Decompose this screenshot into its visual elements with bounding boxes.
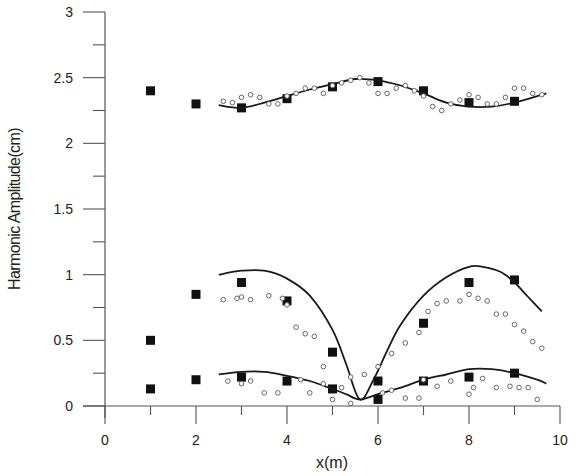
circle-marker <box>467 92 472 97</box>
circle-marker <box>458 299 463 304</box>
square-marker <box>192 290 201 299</box>
circle-marker <box>348 78 353 83</box>
circle-marker <box>330 397 335 402</box>
circle-marker <box>485 102 490 107</box>
circle-marker <box>471 385 476 390</box>
circle-marker <box>449 379 454 384</box>
circle-marker <box>426 309 431 314</box>
square-marker <box>146 86 155 95</box>
circle-marker <box>321 364 326 369</box>
circle-marker <box>517 385 522 390</box>
circle-marker <box>267 102 272 107</box>
upper-squares-series <box>146 77 519 112</box>
circle-marker <box>526 385 531 390</box>
square-marker <box>419 319 428 328</box>
circle-marker <box>276 391 281 396</box>
circle-marker <box>535 397 540 402</box>
circle-marker <box>485 299 490 304</box>
x-tick-label: 2 <box>192 432 200 448</box>
x-tick-label: 10 <box>552 432 568 448</box>
circle-marker <box>312 86 317 91</box>
circle-marker <box>367 81 372 86</box>
square-marker <box>146 384 155 393</box>
plot-area <box>146 75 546 405</box>
circle-marker <box>280 296 285 301</box>
circle-marker <box>512 322 517 327</box>
circle-marker <box>248 297 253 302</box>
circle-marker <box>226 379 231 384</box>
circle-marker <box>521 329 526 334</box>
circle-marker <box>262 391 267 396</box>
x-tick-label: 0 <box>101 432 109 448</box>
circle-marker <box>403 396 408 401</box>
circle-marker <box>235 296 240 301</box>
circle-marker <box>339 81 344 86</box>
circle-marker <box>380 391 385 396</box>
circle-marker <box>239 295 244 300</box>
circle-marker <box>376 91 381 96</box>
circle-marker <box>435 384 440 389</box>
y-tick-label: 1.5 <box>54 201 74 217</box>
square-marker <box>328 348 337 357</box>
circle-marker <box>248 379 253 384</box>
circle-marker <box>540 92 545 97</box>
x-tick-label: 8 <box>465 432 473 448</box>
x-axis-title: x(m) <box>316 454 348 471</box>
circle-marker <box>417 330 422 335</box>
square-marker <box>465 373 474 382</box>
circle-marker <box>221 297 226 302</box>
circle-marker <box>257 95 262 100</box>
circle-marker <box>339 385 344 390</box>
circle-marker <box>494 102 499 107</box>
circle-marker <box>449 102 454 107</box>
circle-marker <box>403 341 408 346</box>
y-tick-label: 3 <box>65 4 73 20</box>
circle-marker <box>444 299 449 304</box>
circle-marker <box>239 381 244 386</box>
square-marker <box>237 373 246 382</box>
circle-marker <box>321 91 326 96</box>
circle-marker <box>276 102 281 107</box>
circle-marker <box>389 351 394 356</box>
square-marker <box>192 375 201 384</box>
circle-marker <box>435 301 440 306</box>
y-tick-label: 2.5 <box>54 70 74 86</box>
circle-marker <box>512 86 517 91</box>
circle-marker <box>221 99 226 104</box>
y-axis-title: Harmonic Amplitude(cm) <box>6 128 23 290</box>
bottom-circles-series <box>226 376 540 406</box>
x-tick-label: 4 <box>283 432 291 448</box>
circle-marker <box>508 384 513 389</box>
square-marker <box>465 278 474 287</box>
circle-marker <box>285 94 290 99</box>
circle-marker <box>307 391 312 396</box>
circle-marker <box>417 396 422 401</box>
circle-marker <box>439 108 444 113</box>
circle-marker <box>521 86 526 91</box>
y-tick-label: 1 <box>65 267 73 283</box>
circle-marker <box>230 100 235 105</box>
circle-marker <box>303 86 308 91</box>
circle-marker <box>458 98 463 103</box>
circle-marker <box>298 377 303 382</box>
x-tick-label: 6 <box>374 432 382 448</box>
circle-marker <box>385 91 390 96</box>
circle-marker <box>394 86 399 91</box>
circle-marker <box>303 331 308 336</box>
circle-marker <box>358 75 363 80</box>
circle-marker <box>467 392 472 397</box>
y-tick-label: 0.5 <box>54 332 74 348</box>
square-marker <box>146 336 155 345</box>
circle-marker <box>312 334 317 339</box>
middle-circles-series <box>221 292 544 379</box>
square-marker <box>374 395 383 404</box>
y-tick-label: 0 <box>65 398 73 414</box>
square-marker <box>237 278 246 287</box>
circle-marker <box>476 296 481 301</box>
circle-marker <box>348 375 353 380</box>
circle-marker <box>267 293 272 298</box>
circle-marker <box>421 377 426 382</box>
circle-marker <box>530 91 535 96</box>
circle-marker <box>321 381 326 386</box>
circle-marker <box>476 95 481 100</box>
